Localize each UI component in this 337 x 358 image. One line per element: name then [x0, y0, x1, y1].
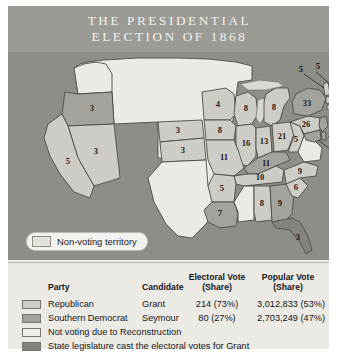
cell-popular-vote: 2,703,249 (47%): [252, 311, 330, 325]
ev-label-KY: 11: [262, 158, 270, 168]
ev-label-GA: 9: [278, 198, 282, 208]
ev-label-VT: 5: [299, 64, 303, 74]
ev-label-NE: 3: [176, 125, 180, 135]
column-header-electoral-vote: Electoral Vote (Share): [184, 273, 250, 292]
state-MA: [326, 95, 329, 104]
cell-popular-vote: 3,012,833 (53%): [252, 297, 330, 311]
ev-label-MI: 8: [272, 102, 277, 112]
ev-label-CA: 5: [66, 156, 70, 166]
cell-electoral-vote: 214 (73%): [184, 297, 250, 311]
ev-label-NC: 9: [298, 166, 302, 176]
legend-swatch-not-voting: [22, 328, 41, 337]
cell-candidate: Grant: [142, 297, 165, 311]
ev-label-IN: 13: [260, 136, 269, 146]
state-CT: [327, 104, 329, 110]
us-map-svg: 3 3 5 3 3 4 8: [8, 52, 329, 260]
ev-label-NV: 3: [94, 146, 98, 156]
ev-label-NH: 5: [316, 61, 320, 71]
ev-label-AL: 8: [260, 198, 265, 208]
map-panel: 3 3 5 3 3 4 8: [8, 52, 329, 260]
results-legend: Party Candidate Electoral Vote (Share) P…: [8, 262, 329, 349]
column-header-popular-vote: Popular Vote (Share): [252, 273, 324, 292]
legend-note-row: Not voting due to Reconstruction: [16, 325, 326, 339]
non-voting-label: Non-voting territory: [57, 236, 137, 247]
ev-label-KS: 3: [181, 145, 185, 155]
ev-label-OR: 3: [90, 103, 94, 113]
ev-label-FL: 3: [296, 232, 300, 242]
table-row: Republican Grant 214 (73%) 3,012,833 (53…: [16, 297, 326, 311]
legend-note-label: State legislature cast the electoral vot…: [48, 339, 249, 353]
legend-note-label: Not voting due to Reconstruction: [48, 325, 181, 339]
cell-candidate: Seymour: [142, 311, 179, 325]
page-root: The Presidential Election of 1868 3 3 5: [0, 0, 337, 358]
ev-label-MN: 4: [216, 99, 221, 109]
figure-title-band: The Presidential Election of 1868: [8, 6, 329, 52]
ev-label-IL: 16: [242, 138, 251, 148]
ev-label-SC: 6: [294, 182, 299, 192]
non-voting-swatch: [32, 236, 51, 247]
ev-label-WI: 8: [244, 103, 249, 113]
column-header-party: Party: [48, 283, 70, 293]
state-MI: [264, 88, 290, 126]
ev-label-TN: 10: [256, 172, 265, 182]
ev-label-LA: 7: [218, 208, 223, 218]
legend-note-row: State legislature cast the electoral vot…: [16, 339, 326, 353]
state-OR: [62, 92, 114, 126]
state-WA: [74, 62, 112, 94]
ev-label-NY: 33: [303, 98, 312, 108]
cell-electoral-vote: 80 (27%): [184, 311, 250, 325]
ev-label-IA: 8: [218, 125, 223, 135]
state-DE: [321, 132, 326, 140]
state-VT: [323, 82, 329, 96]
ev-label-PA: 26: [302, 119, 311, 129]
ev-label-WV: 5: [294, 134, 298, 144]
election-map-figure: The Presidential Election of 1868 3 3 5: [8, 6, 329, 349]
column-header-candidate: Candidate: [142, 283, 184, 293]
ev-label-MO: 11: [220, 152, 228, 162]
ev-label-OH: 21: [278, 131, 287, 141]
state-NJ: [319, 116, 328, 132]
legend-swatch-republican: [22, 300, 41, 309]
cell-party: Republican: [48, 297, 94, 311]
cell-party: Southern Democrat: [48, 311, 128, 325]
legend-swatch-southern-democrat: [22, 314, 41, 323]
state-FL: [272, 218, 312, 254]
ev-label-AR: 5: [220, 183, 224, 193]
table-row: Southern Democrat Seymour 80 (27%) 2,703…: [16, 311, 326, 325]
non-voting-territory-legend: Non-voting territory: [26, 232, 148, 251]
legend-swatch-legislature: [22, 342, 41, 351]
page-title: The Presidential Election of 1868: [86, 13, 252, 45]
